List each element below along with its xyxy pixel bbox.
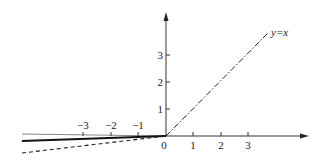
y-ticks — [166, 55, 170, 109]
identity-label: y=x — [270, 26, 288, 38]
x-axis-arrow-icon — [300, 134, 309, 139]
x-tick-label: 0 — [161, 139, 167, 151]
x-tick-label: −3 — [77, 119, 89, 131]
series-solid-line — [22, 136, 166, 141]
y-axis-arrow-icon — [164, 12, 169, 21]
x-tick-label: −2 — [105, 119, 117, 131]
series-identity-line — [166, 33, 268, 136]
y-tick-label: 3 — [158, 49, 164, 61]
x-tick-label: 2 — [218, 139, 224, 151]
x-tick-label: −1 — [132, 119, 144, 131]
x-tick-label: 3 — [245, 139, 251, 151]
chart-canvas: −3 −2 −1 0 1 2 3 1 2 3 y=x — [0, 0, 326, 166]
y-tick-label: 1 — [158, 103, 164, 115]
y-tick-label: 2 — [158, 76, 164, 88]
x-tick-label: 1 — [190, 139, 196, 151]
